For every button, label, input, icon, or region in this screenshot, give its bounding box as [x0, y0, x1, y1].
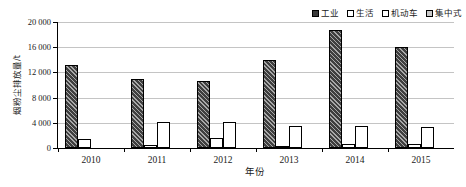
- x-axis-tick-label: 2013: [256, 155, 322, 165]
- y-axis-tick-label: 4 000: [32, 118, 51, 127]
- bars: [131, 22, 183, 148]
- bar-chart: 工业 生活 机动车 集中式 烟粉尘排放量/t 04 0008 00012 000…: [0, 0, 466, 187]
- bars: [329, 22, 381, 148]
- x-axis-title: 年份: [57, 166, 453, 177]
- bars: [197, 22, 249, 148]
- bar-industrial[interactable]: [263, 60, 276, 148]
- x-axis-tick-mark: [58, 148, 59, 152]
- y-axis-tick-label: 8 000: [32, 93, 51, 102]
- y-axis-tick-label: 12 000: [28, 68, 51, 77]
- y-axis-tick-label: 0: [47, 144, 51, 153]
- bars: [395, 22, 447, 148]
- legend-item-industrial[interactable]: 工业: [312, 9, 339, 18]
- x-axis-tick-label: 2012: [190, 155, 256, 165]
- bar-groups: 201020112012201320142015: [58, 22, 454, 148]
- x-axis-tick-mark: [256, 148, 257, 152]
- x-axis-tick-label: 2014: [322, 155, 388, 165]
- bar-industrial[interactable]: [65, 65, 78, 148]
- bar-residential[interactable]: [342, 144, 355, 148]
- x-axis-tick-label: 2011: [124, 155, 190, 165]
- bar-vehicle[interactable]: [289, 126, 302, 148]
- y-axis-tick-label: 20 000: [28, 18, 51, 27]
- bar-vehicle[interactable]: [223, 122, 236, 148]
- x-axis-tick-mark: [322, 148, 323, 152]
- legend-item-residential[interactable]: 生活: [347, 9, 374, 18]
- y-axis-ticks: 04 0008 00012 00016 00020 000: [0, 22, 57, 148]
- bar-residential[interactable]: [144, 145, 157, 148]
- bar-residential[interactable]: [276, 146, 289, 148]
- bar-vehicle[interactable]: [421, 127, 434, 148]
- legend-item-central[interactable]: 集中式: [426, 9, 462, 18]
- x-axis-tick-mark: [388, 148, 389, 152]
- bar-industrial[interactable]: [395, 47, 408, 148]
- x-axis-tick-label: 2010: [58, 155, 124, 165]
- bar-group: 2012: [190, 22, 256, 148]
- bar-industrial[interactable]: [131, 79, 144, 148]
- bar-group: 2014: [322, 22, 388, 148]
- plot-area: 201020112012201320142015: [57, 22, 454, 149]
- legend-label-industrial: 工业: [321, 9, 339, 18]
- x-axis-tick-mark: [190, 148, 191, 152]
- bar-residential[interactable]: [78, 139, 91, 148]
- legend-swatch-industrial: [312, 10, 319, 17]
- bar-industrial[interactable]: [329, 30, 342, 148]
- y-axis-tick-label: 16 000: [28, 43, 51, 52]
- bar-group: 2010: [58, 22, 124, 148]
- legend-swatch-central: [426, 10, 433, 17]
- bar-group: 2013: [256, 22, 322, 148]
- legend-label-central: 集中式: [435, 9, 462, 18]
- bar-vehicle[interactable]: [157, 122, 170, 148]
- legend-label-vehicle: 机动车: [391, 9, 418, 18]
- bar-vehicle[interactable]: [355, 126, 368, 148]
- chart-legend: 工业 生活 机动车 集中式: [256, 6, 462, 20]
- x-axis-tick-mark: [124, 148, 125, 152]
- bars: [263, 22, 315, 148]
- bar-industrial[interactable]: [197, 81, 210, 148]
- legend-swatch-vehicle: [382, 10, 389, 17]
- bar-residential[interactable]: [408, 144, 421, 148]
- bars: [65, 22, 117, 148]
- x-axis-tick-label: 2015: [388, 155, 454, 165]
- bar-group: 2011: [124, 22, 190, 148]
- legend-label-residential: 生活: [356, 9, 374, 18]
- legend-swatch-residential: [347, 10, 354, 17]
- bar-residential[interactable]: [210, 138, 223, 148]
- bar-group: 2015: [388, 22, 454, 148]
- legend-item-vehicle[interactable]: 机动车: [382, 9, 418, 18]
